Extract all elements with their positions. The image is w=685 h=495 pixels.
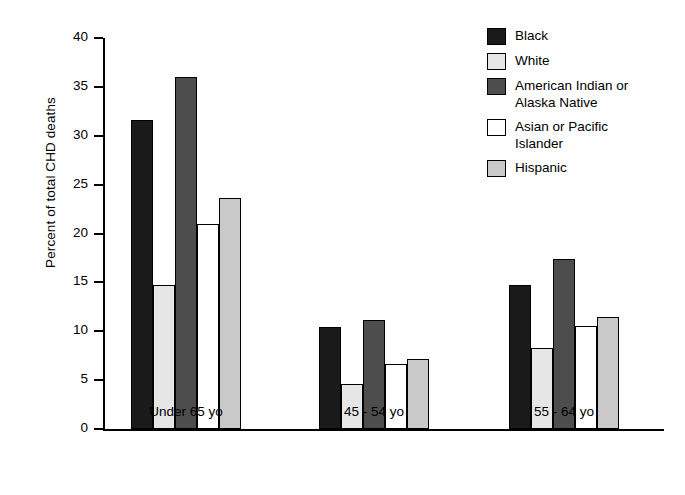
bar [509,285,531,429]
bar [319,327,341,429]
legend-swatch [487,53,506,70]
legend-swatch [487,119,506,136]
legend-item: Black [487,27,682,45]
bar [219,198,241,429]
legend-item: Asian or Pacific Islander [487,118,682,152]
legend-label: White [515,52,550,69]
y-axis-tick: 20 [94,233,103,235]
y-axis-tick: 5 [94,379,103,381]
chart-figure: Percent of total CHD deaths 051015202530… [0,0,685,495]
y-axis-tick: 10 [94,330,103,332]
legend-item: Hispanic [487,159,682,177]
chart-legend: BlackWhiteAmerican Indian or Alaska Nati… [487,27,682,184]
y-axis-tick-label: 25 [73,175,88,193]
y-axis-tick: 25 [94,184,103,186]
y-axis-tick-label: 10 [73,321,88,339]
y-axis-tick-label: 20 [73,224,88,242]
bar [597,317,619,429]
legend-label: American Indian or Alaska Native [515,77,628,111]
x-axis-line [103,429,664,431]
bar [407,359,429,429]
legend-item: American Indian or Alaska Native [487,77,682,111]
legend-swatch [487,160,506,177]
bar [175,77,197,429]
x-axis-group-label: Under 65 yo [149,404,223,419]
y-axis-tick: 0 [94,428,103,430]
y-axis-tick-label: 40 [73,28,88,46]
legend-item: White [487,52,682,70]
y-axis-tick-label: 30 [73,126,88,144]
legend-label: Asian or Pacific Islander [515,118,608,152]
y-axis-tick-label: 15 [73,272,88,290]
y-axis-tick-label: 0 [80,419,88,437]
x-axis-group-label: 45 - 54 yo [344,404,404,419]
y-axis-tick-label: 35 [73,77,88,95]
bar [385,364,407,429]
y-axis-tick: 40 [94,37,103,39]
legend-label: Hispanic [515,159,567,176]
x-axis-group-label: 55 - 64 yo [534,404,594,419]
y-axis-tick-label: 5 [80,370,88,388]
y-axis-tick: 30 [94,135,103,137]
legend-swatch [487,28,506,45]
y-axis-tick: 35 [94,86,103,88]
legend-swatch [487,78,506,95]
y-axis-title: Percent of total CHD deaths [43,53,58,313]
legend-label: Black [515,27,548,44]
y-axis-tick: 15 [94,281,103,283]
bar [131,120,153,429]
bar [197,224,219,429]
